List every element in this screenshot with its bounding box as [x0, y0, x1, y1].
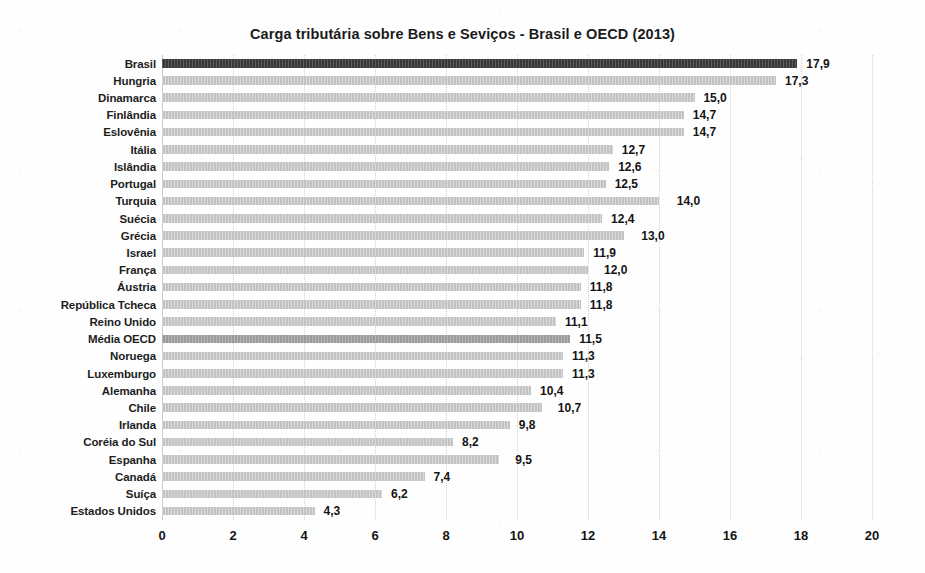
x-tick-label: 18	[794, 528, 808, 543]
category-label: Islândia	[114, 161, 156, 173]
x-tick-label: 8	[442, 528, 449, 543]
value-label: 17,9	[806, 57, 829, 71]
bar	[162, 59, 797, 68]
category-label: Turquia	[115, 195, 156, 207]
bar-row: Grécia13,0	[162, 227, 925, 244]
x-tick-label: 0	[158, 528, 165, 543]
bar	[162, 386, 531, 395]
x-axis: 02468101214161820	[162, 520, 872, 550]
value-label: 11,5	[579, 332, 602, 346]
bar-row: Finlândia14,7	[162, 107, 925, 124]
bar-row: Suíça6,2	[162, 486, 925, 503]
value-label: 9,5	[515, 453, 532, 467]
category-label: Suíça	[126, 488, 156, 500]
value-label: 15,0	[703, 91, 726, 105]
category-label: Grécia	[121, 230, 156, 242]
bar	[162, 214, 602, 223]
value-label: 4,3	[324, 504, 341, 518]
bar-row: Israel11,9	[162, 244, 925, 261]
value-label: 11,9	[593, 246, 616, 260]
bar-row: Noruega11,3	[162, 348, 925, 365]
bar-row: Islândia12,6	[162, 158, 925, 175]
value-label: 14,7	[693, 108, 716, 122]
category-label: Itália	[130, 144, 156, 156]
bar	[162, 352, 563, 361]
value-label: 11,1	[565, 315, 588, 329]
bar-row: Luxemburgo11,3	[162, 365, 925, 382]
category-label: Eslovênia	[103, 126, 156, 138]
x-tick-label: 14	[652, 528, 666, 543]
x-tick-label: 6	[371, 528, 378, 543]
bar-row: Irlanda9,8	[162, 417, 925, 434]
bar-row: Portugal12,5	[162, 176, 925, 193]
bar	[162, 128, 684, 137]
x-tick-label: 20	[865, 528, 879, 543]
bar-row: Coréia do Sul8,2	[162, 434, 925, 451]
bar	[162, 111, 684, 120]
category-label: Espanha	[109, 454, 156, 466]
category-label: Canadá	[115, 471, 156, 483]
bar	[162, 490, 382, 499]
bar	[162, 266, 588, 275]
category-label: Coréia do Sul	[83, 436, 156, 448]
bar-row: Hungria17,3	[162, 72, 925, 89]
bar	[162, 472, 425, 481]
category-label: Luxemburgo	[87, 368, 156, 380]
bar	[162, 335, 570, 344]
bar-row: Média OECD11,5	[162, 331, 925, 348]
value-label: 12,5	[615, 177, 638, 191]
x-tick-label: 12	[581, 528, 595, 543]
bar-row: Reino Unido11,1	[162, 313, 925, 330]
value-label: 7,4	[434, 470, 451, 484]
bar-row: Dinamarca15,0	[162, 89, 925, 106]
category-label: Hungria	[113, 75, 156, 87]
value-label: 9,8	[519, 418, 536, 432]
bar	[162, 403, 542, 412]
bar-row: Itália12,7	[162, 141, 925, 158]
bar	[162, 180, 606, 189]
value-label: 10,4	[540, 384, 563, 398]
value-label: 8,2	[462, 435, 479, 449]
value-label: 12,7	[622, 143, 645, 157]
category-label: Dinamarca	[98, 92, 156, 104]
category-label: Noruega	[110, 350, 156, 362]
bar	[162, 317, 556, 326]
value-label: 6,2	[391, 487, 408, 501]
category-label: Suécia	[120, 213, 156, 225]
bar-row: França12,0	[162, 262, 925, 279]
chart-container: Carga tributária sobre Bens e Seviços - …	[0, 0, 925, 573]
category-label: Áustria	[117, 281, 156, 293]
x-tick-label: 4	[300, 528, 307, 543]
category-label: Portugal	[110, 178, 156, 190]
x-tick-label: 2	[229, 528, 236, 543]
category-label: Finlândia	[106, 109, 156, 121]
value-label: 11,8	[590, 298, 613, 312]
bar-row: Eslovênia14,7	[162, 124, 925, 141]
bar-row: Suécia12,4	[162, 210, 925, 227]
bar	[162, 455, 499, 464]
bar	[162, 438, 453, 447]
bar-row: Brasil17,9	[162, 55, 925, 72]
bar-row: Canadá7,4	[162, 468, 925, 485]
category-label: Média OECD	[88, 333, 156, 345]
category-label: Chile	[128, 402, 156, 414]
bar	[162, 248, 584, 257]
bar	[162, 421, 510, 430]
bar-row: Turquia14,0	[162, 193, 925, 210]
bar-row: Chile10,7	[162, 399, 925, 416]
category-label: Brasil	[125, 58, 156, 70]
plot-area: Brasil17,9Hungria17,3Dinamarca15,0Finlân…	[162, 55, 872, 520]
x-tick-label: 16	[723, 528, 737, 543]
value-label: 11,3	[572, 367, 595, 381]
category-label: Alemanha	[102, 385, 156, 397]
value-label: 17,3	[785, 74, 808, 88]
value-label: 11,3	[572, 349, 595, 363]
bar	[162, 231, 624, 240]
bar	[162, 283, 581, 292]
value-label: 14,0	[677, 194, 700, 208]
bar	[162, 369, 563, 378]
value-label: 13,0	[641, 229, 664, 243]
value-label: 12,6	[618, 160, 641, 174]
value-label: 11,8	[590, 280, 613, 294]
bar-row: Áustria11,8	[162, 279, 925, 296]
